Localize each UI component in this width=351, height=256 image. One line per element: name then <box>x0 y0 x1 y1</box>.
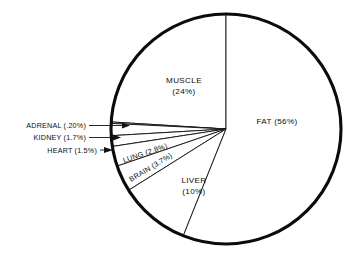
pie-chart-svg: MUSCLE (24%) FAT (56%) LIVER (10%) ADREN… <box>0 0 351 256</box>
label-fat: FAT (56%) <box>256 117 297 126</box>
label-muscle-name: MUSCLE <box>166 76 202 85</box>
label-kidney: KIDNEY (1.7%) <box>34 133 86 142</box>
slice-muscle <box>111 14 226 129</box>
label-liver-name: LIVER <box>181 176 206 185</box>
label-adrenal: ADRENAL (.20%) <box>26 121 86 130</box>
label-muscle-percent: (24%) <box>172 87 195 96</box>
pie-chart-figure: MUSCLE (24%) FAT (56%) LIVER (10%) ADREN… <box>0 0 351 256</box>
label-liver-percent: (10%) <box>182 187 205 196</box>
label-heart: HEART (1.5%) <box>47 146 97 155</box>
